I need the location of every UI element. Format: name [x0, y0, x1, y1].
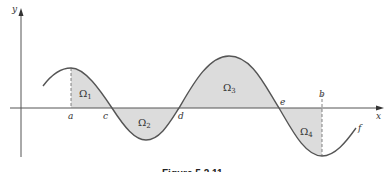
area-diagram: y x a c d e b f Ω1 Ω2 Ω3 Ω4 Figure 5.2.1… [0, 0, 386, 172]
y-axis-label: y [11, 4, 18, 14]
point-label-b: b [319, 89, 325, 99]
point-label-c: c [103, 111, 108, 121]
y-axis-arrow-icon [19, 8, 24, 16]
x-axis-arrow-icon [376, 106, 384, 111]
figure-caption: Figure 5.2.11 [162, 168, 223, 172]
region-omega-1 [71, 68, 112, 108]
point-label-d: d [178, 111, 184, 121]
point-label-a: a [68, 111, 73, 121]
point-label-e: e [280, 97, 285, 107]
x-axis-label: x [376, 111, 381, 121]
curve-label-f: f [357, 123, 363, 133]
